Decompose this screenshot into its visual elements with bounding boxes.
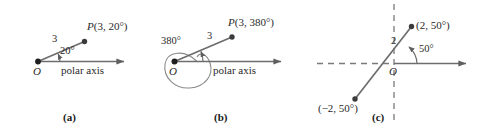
panel-b-point-label-coords: (3, 380°): [235, 16, 274, 28]
panel-c-lower-point-label: (−2, 50°): [318, 103, 358, 114]
panel-b-origin-dot: [172, 59, 178, 65]
panel-b-graphics: [165, 34, 281, 88]
panel-b-point-label-p: P: [228, 16, 235, 28]
panel-a-point-dot: [82, 39, 87, 44]
panel-c-upper-point-dot: [409, 24, 414, 29]
panel-b-radius-label: 3: [207, 31, 212, 42]
panel-a-axis-label: polar axis: [61, 65, 104, 76]
panel-b-angle-label: 380°: [161, 36, 181, 47]
panel-c-angle-arc: [409, 47, 417, 64]
panel-c-origin-label: O: [389, 66, 397, 77]
panel-a-caption: (a): [63, 112, 76, 123]
panel-a-graphics: [35, 39, 124, 65]
panel-a-point-label-coords: (3, 20°): [94, 20, 128, 32]
panel-a-point-label-p: P: [87, 20, 94, 32]
panel-c-caption: (c): [372, 112, 384, 123]
panel-b-angle-arc: [201, 52, 203, 62]
panel-c-upper-point-label: (2, 50°): [416, 20, 450, 31]
panel-b-point-label: P(3, 380°): [228, 17, 274, 28]
panel-b-caption: (b): [214, 112, 227, 123]
panel-b-origin-label: O: [169, 66, 177, 77]
panel-b-axis-label: polar axis: [213, 65, 256, 76]
panel-a-angle-label: 20°: [60, 46, 75, 57]
panel-c-lower-point-coords: (−2, 50°): [318, 102, 358, 114]
panel-a-radius-label: 3: [52, 34, 57, 45]
panel-c-radius-label: 2: [391, 36, 396, 47]
panel-c-angle-label: 50°: [419, 44, 434, 55]
panel-b-point-dot: [229, 34, 234, 39]
panel-a-origin-label: O: [33, 66, 41, 77]
polar-coordinates-figure: P(3, 20°) 3 20° O polar axis (a) P(3, 38…: [0, 0, 486, 136]
panel-a-point-label: P(3, 20°): [87, 21, 127, 32]
panel-c-lower-point-dot: [352, 96, 357, 101]
panel-a-origin-dot: [35, 59, 41, 65]
panel-c-upper-point-coords: (2, 50°): [416, 19, 450, 31]
